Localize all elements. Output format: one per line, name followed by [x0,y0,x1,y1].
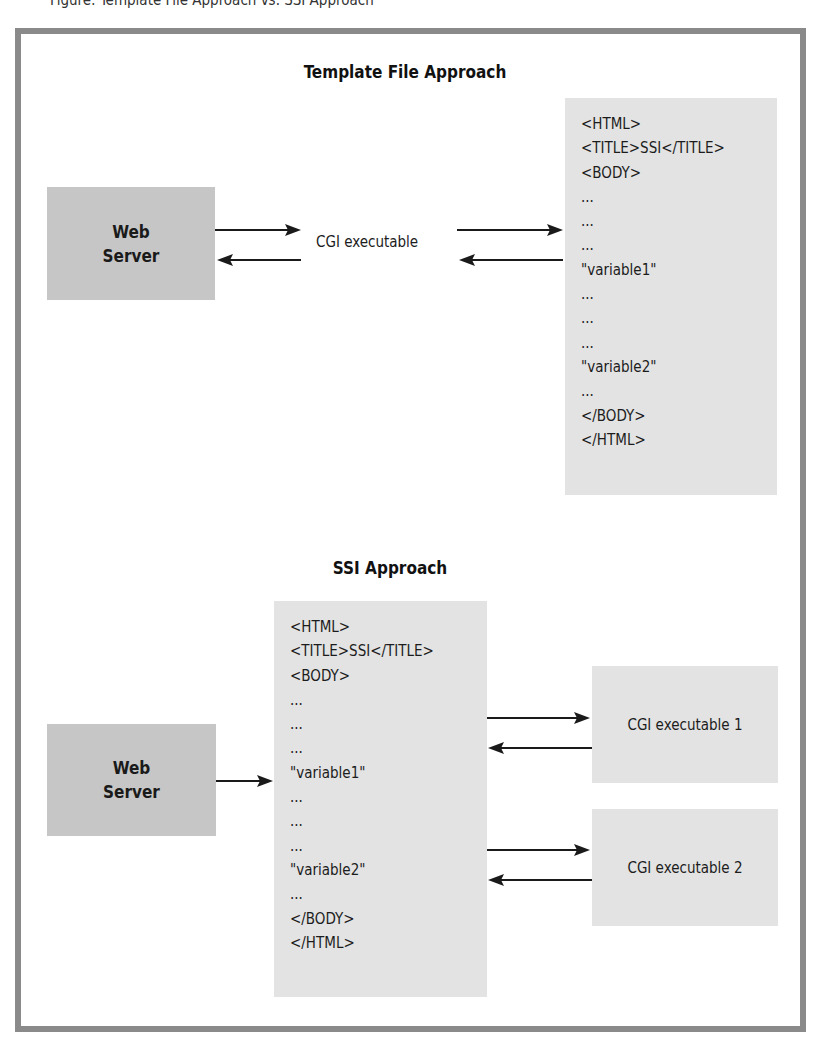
doc-line: <HTML> [581,112,725,136]
doc-line-variable1: "variable1" [581,258,725,282]
arrow-ssi-doc-to-cgi2-icon [487,842,593,886]
cgi-executable-2-box: CGI executable 2 [592,809,778,926]
doc-line: ... [581,282,725,306]
doc-line: ... [290,834,434,858]
template-approach-title: Template File Approach [300,62,510,82]
ssi-html-document: <HTML> <TITLE>SSI</TITLE> <BODY> ... ...… [274,601,487,997]
template-html-document: <HTML> <TITLE>SSI</TITLE> <BODY> ... ...… [565,98,777,495]
doc-line: ... [290,882,434,906]
doc-line: <TITLE>SSI</TITLE> [581,136,725,160]
doc-line: </BODY> [581,404,725,428]
template-web-server-box: Web Server [47,187,215,300]
doc-line: ... [290,785,434,809]
arrow-ssi-doc-to-cgi1-icon [487,710,593,754]
doc-line: ... [581,233,725,257]
doc-line: </HTML> [290,931,434,955]
web-server-label-line1: Web [103,220,160,244]
doc-line: ... [581,379,725,403]
doc-line: ... [290,736,434,760]
doc-line: ... [581,209,725,233]
doc-line: ... [581,331,725,355]
doc-line: <TITLE>SSI</TITLE> [290,639,434,663]
doc-line-variable2: "variable2" [581,355,725,379]
cgi-executable-2-label: CGI executable 2 [627,859,742,877]
doc-line: ... [290,712,434,736]
ssi-approach-title: SSI Approach [300,558,480,578]
figure-caption: Figure: Template File Approach vs. SSI A… [50,0,374,9]
doc-line: ... [290,688,434,712]
doc-line: <BODY> [290,664,434,688]
web-server-label-line1: Web [103,756,160,780]
doc-line: ... [581,185,725,209]
doc-line: <BODY> [581,161,725,185]
ssi-web-server-box: Web Server [47,724,216,836]
cgi-executable-1-box: CGI executable 1 [592,666,778,783]
web-server-label-line2: Server [103,244,160,268]
web-server-label-line2: Server [103,780,160,804]
doc-line: </BODY> [290,907,434,931]
doc-line: ... [290,809,434,833]
doc-line-variable1: "variable1" [290,761,434,785]
doc-line: </HTML> [581,428,725,452]
arrow-server-to-cgi-icon [215,222,305,266]
doc-line: ... [581,306,725,330]
arrow-server-to-ssi-doc-icon [216,773,276,789]
cgi-executable-1-label: CGI executable 1 [627,716,742,734]
doc-line-variable2: "variable2" [290,858,434,882]
arrow-cgi-to-template-icon [457,222,567,266]
cgi-executable-label: CGI executable [316,233,418,251]
doc-line: <HTML> [290,615,434,639]
